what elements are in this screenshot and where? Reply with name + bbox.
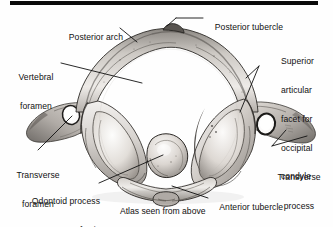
label-odontoid-line1: Odontoid process (14, 197, 100, 207)
label-vertebral-foramen-line1: Vertebral (10, 73, 62, 83)
left-lateral-mass (81, 101, 147, 187)
figure-caption: Atlas seen from above (120, 206, 206, 216)
label-superior-facet-line4: occipital (281, 144, 314, 154)
anatomical-figure: Posterior tubercle Posterior arch Verteb… (0, 0, 333, 227)
label-odontoid-line2: of axis (14, 226, 100, 227)
label-vertebral-foramen: Vertebral foramen (10, 54, 62, 131)
label-superior-facet-line2: articular (281, 86, 314, 96)
label-posterior-tubercle: Posterior tubercle (205, 13, 283, 42)
label-superior-facet-line3: facet for (281, 115, 314, 125)
label-odontoid-process: Odontoid process of axis (14, 178, 100, 227)
label-anterior-tubercle: Anterior tubercle (210, 193, 283, 222)
label-posterior-tubercle-text: Posterior tubercle (215, 22, 283, 32)
label-posterior-arch-text: Posterior arch (69, 32, 123, 42)
odontoid-process-of-axis (147, 134, 188, 178)
label-posterior-arch: Posterior arch (59, 23, 123, 52)
label-superior-facet-line1: Superior (281, 57, 314, 67)
label-transverse-process-line1: Transverse (268, 173, 330, 183)
right-lateral-mass (191, 99, 255, 189)
label-vertebral-foramen-line2: foramen (10, 102, 62, 112)
label-anterior-tubercle-text: Anterior tubercle (219, 202, 283, 212)
